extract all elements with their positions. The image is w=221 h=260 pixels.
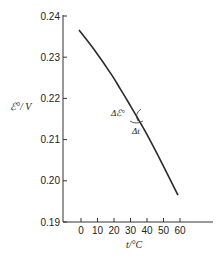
x-tick-label: 20 [108, 225, 120, 236]
y-axis-label: ℰ°/ V [10, 101, 33, 112]
x-tick-label: 50 [158, 225, 170, 236]
y-tick-label: 0.19 [41, 217, 61, 228]
x-ticks: 0102030405060 [78, 218, 186, 236]
y-tick-label: 0.23 [41, 52, 61, 63]
x-tick-label: 10 [92, 225, 104, 236]
x-tick-label: 0 [78, 225, 84, 236]
delta-t-label: Δt [131, 126, 140, 136]
x-tick-label: 40 [141, 225, 153, 236]
y-tick-label: 0.21 [41, 134, 61, 145]
y-tick-label: 0.22 [41, 93, 61, 104]
x-tick-label: 60 [174, 225, 186, 236]
data-line [79, 30, 178, 195]
delta-e-label: Δℰ° [110, 108, 125, 118]
y-tick-label: 0.20 [41, 175, 61, 186]
delta-annotation: Δℰ° Δt [110, 108, 143, 136]
y-tick-label: 0.24 [41, 11, 61, 22]
x-axis-label: t/°C [126, 239, 143, 250]
chart: 0.190.200.210.220.230.24 0102030405060 Δ… [0, 0, 221, 260]
x-tick-label: 30 [125, 225, 137, 236]
